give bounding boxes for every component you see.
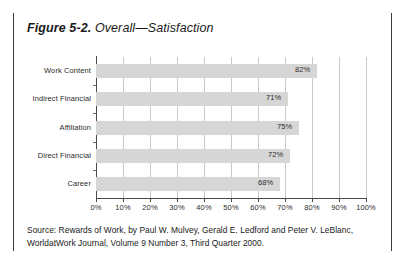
x-axis-tick bbox=[258, 199, 259, 202]
x-axis-tick bbox=[285, 199, 286, 202]
bar-row: 68% bbox=[96, 177, 366, 191]
bar bbox=[96, 121, 299, 135]
page-right-rule bbox=[391, 13, 392, 251]
x-axis-tick-label: 50% bbox=[223, 203, 238, 212]
x-axis-tick bbox=[123, 199, 124, 202]
page-left-rule bbox=[13, 13, 14, 251]
x-axis-tick bbox=[339, 199, 340, 202]
x-axis-tick bbox=[177, 199, 178, 202]
x-axis-tick-label: 100% bbox=[356, 203, 376, 212]
bar-value-label: 82% bbox=[295, 65, 310, 74]
bar-row: 71% bbox=[96, 92, 366, 106]
category-label: Affiliation bbox=[60, 123, 91, 132]
x-axis-tick-label: 70% bbox=[277, 203, 292, 212]
figure-title-text: Overall—Satisfaction bbox=[95, 21, 214, 35]
gridline bbox=[366, 57, 367, 198]
bar-chart: 82%71%75%72%68% Work ContentIndirect Fin… bbox=[27, 48, 372, 214]
y-axis-tick bbox=[93, 85, 96, 86]
bar-value-label: 72% bbox=[268, 150, 283, 159]
bar bbox=[96, 149, 290, 163]
bar-row: 72% bbox=[96, 149, 366, 163]
x-axis-tick bbox=[96, 199, 97, 202]
bar bbox=[96, 92, 288, 106]
x-axis-tick-label: 10% bbox=[115, 203, 130, 212]
x-axis-tick bbox=[231, 199, 232, 202]
y-axis-tick bbox=[93, 113, 96, 114]
figure-page: Figure 5-2. Overall—Satisfaction 82%71%7… bbox=[0, 0, 403, 263]
y-axis-tick bbox=[93, 142, 96, 143]
bar bbox=[96, 177, 280, 191]
bar bbox=[96, 64, 317, 78]
x-axis-tick bbox=[150, 199, 151, 202]
source-line-2: WorldatWork Journal, Volume 9 Number 3, … bbox=[27, 237, 377, 250]
source-line-1: Source: Rewards of Work, by Paul W. Mulv… bbox=[27, 224, 377, 237]
x-axis-tick-label: 30% bbox=[169, 203, 184, 212]
source-note: Source: Rewards of Work, by Paul W. Mulv… bbox=[27, 224, 377, 250]
x-axis-tick-label: 80% bbox=[304, 203, 319, 212]
x-axis-tick bbox=[366, 199, 367, 202]
y-axis-tick bbox=[93, 170, 96, 171]
x-axis-tick-label: 20% bbox=[142, 203, 157, 212]
x-axis-tick-label: 60% bbox=[250, 203, 265, 212]
category-label: Indirect Financial bbox=[33, 94, 92, 103]
x-axis-tick bbox=[312, 199, 313, 202]
x-axis-tick-label: 90% bbox=[331, 203, 346, 212]
bar-row: 82% bbox=[96, 64, 366, 78]
category-label: Direct Financial bbox=[38, 151, 91, 160]
x-axis-tick-label: 0% bbox=[90, 203, 101, 212]
bar-value-label: 75% bbox=[277, 122, 292, 131]
category-label: Work Content bbox=[44, 66, 91, 75]
bar-value-label: 68% bbox=[258, 178, 273, 187]
category-label: Career bbox=[67, 179, 91, 188]
x-axis-tick bbox=[204, 199, 205, 202]
bar-row: 75% bbox=[96, 121, 366, 135]
figure-number: Figure 5-2. bbox=[27, 21, 91, 35]
x-axis-tick-label: 40% bbox=[196, 203, 211, 212]
bar-value-label: 71% bbox=[266, 93, 281, 102]
figure-title: Figure 5-2. Overall—Satisfaction bbox=[27, 21, 214, 35]
